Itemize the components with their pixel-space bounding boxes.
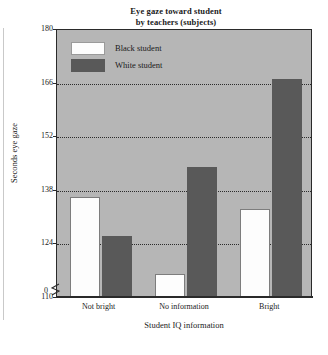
y-axis-tick-mark: [53, 297, 57, 298]
y-axis-tick-label: 138: [31, 186, 53, 194]
bar-white-student: [102, 236, 132, 297]
legend-label-black-student: Black student: [115, 44, 162, 53]
chart-title-line-2: by teachers (subjects): [40, 17, 312, 28]
plot-area: Black student White student: [56, 29, 312, 297]
x-axis-tick-label: Bright: [219, 302, 319, 311]
y-axis-tick-label: 180: [31, 25, 53, 33]
chart-figure: Eye gaze toward student by teachers (sub…: [0, 0, 328, 355]
chart-legend: Black student White student: [71, 41, 221, 75]
bar-black-student: [155, 274, 185, 297]
legend-swatch-white-student: [71, 59, 105, 72]
y-axis-tick-labels: 180166152138124110: [26, 29, 53, 297]
bar-white-student: [187, 167, 217, 297]
y-axis-tick-label: 152: [31, 132, 53, 140]
legend-item-white-student: White student: [71, 58, 221, 72]
legend-label-white-student: White student: [115, 61, 162, 70]
bar-black-student: [70, 197, 100, 297]
chart-title-line-1: Eye gaze toward student: [40, 6, 312, 17]
y-axis-tick-mark: [53, 243, 57, 244]
y-axis-tick-mark: [53, 83, 57, 84]
legend-swatch-black-student: [71, 42, 105, 55]
y-axis-tick-label: 166: [31, 79, 53, 87]
legend-item-black-student: Black student: [71, 41, 221, 55]
bar-black-student: [240, 209, 270, 297]
axis-break-icon: [50, 283, 62, 297]
page-edge-artifact: [3, 28, 4, 320]
y-axis-origin-label: 0: [26, 286, 48, 295]
y-axis-tick-mark: [53, 190, 57, 191]
y-axis-title: Seconds eye gaze: [9, 93, 19, 213]
bar-white-student: [272, 79, 302, 297]
x-axis-line: [56, 296, 313, 298]
y-axis-tick-mark: [53, 136, 57, 137]
y-axis-tick-mark: [53, 29, 57, 30]
chart-title: Eye gaze toward student by teachers (sub…: [40, 6, 312, 27]
x-axis-title: Student IQ information: [56, 320, 312, 330]
y-axis-tick-label: 124: [31, 239, 53, 247]
